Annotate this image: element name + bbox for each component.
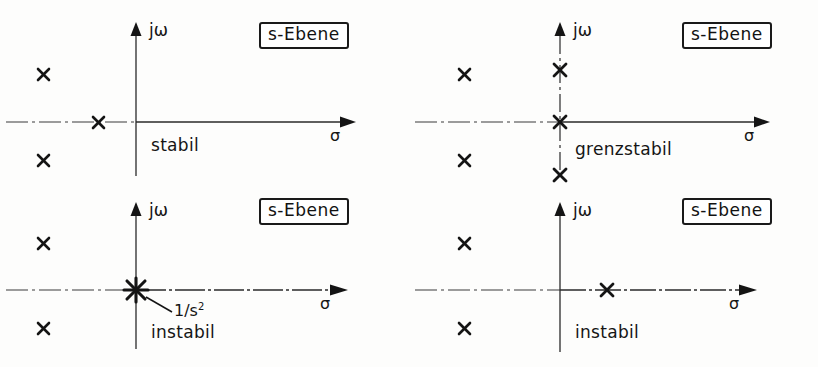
pole-lower-left: [38, 155, 49, 166]
double-pole-origin: [124, 278, 148, 302]
imaginary-axis-label: jω: [573, 202, 592, 219]
real-axis-arrowhead: [754, 117, 770, 128]
imaginary-axis-arrowhead: [555, 22, 566, 36]
real-axis-label: σ: [330, 128, 340, 144]
stability-state-label: stabil: [151, 137, 199, 154]
s-plane-label-box: s-Ebene: [259, 198, 349, 225]
pole-lower-left: [38, 323, 49, 334]
panel-stabil: jω σ stabil s-Ebene: [0, 0, 409, 184]
panel-grenzstabil: jω σ grenzstabil s-Ebene: [409, 0, 818, 184]
imaginary-axis-arrowhead: [131, 202, 142, 216]
pole-real-left: [93, 117, 104, 128]
pole-upper-left: [459, 238, 470, 249]
s-plane-label-box: s-Ebene: [682, 198, 772, 225]
real-axis-label: σ: [729, 296, 739, 312]
stability-state-label: grenzstabil: [575, 141, 672, 158]
pole-upper-left: [38, 69, 49, 80]
imaginary-axis-label: jω: [149, 202, 168, 219]
pole-upper-left: [38, 238, 49, 249]
real-axis-arrowhead: [340, 117, 356, 128]
pole-lower-left: [459, 155, 470, 166]
imaginary-axis-arrowhead: [131, 22, 142, 36]
s-plane-label-box: s-Ebene: [259, 22, 349, 49]
real-axis-arrowhead: [739, 285, 757, 296]
real-axis-arrowhead: [330, 285, 348, 296]
imaginary-axis-label: jω: [149, 22, 168, 39]
transfer-function-annotation: 1/s2: [174, 302, 204, 319]
panel-instabil-double-pole: jω σ 1/s2 instabil s-Ebene: [0, 184, 409, 367]
stability-state-label: instabil: [151, 324, 215, 341]
s-plane-figure: jω σ stabil s-Ebene: [0, 0, 818, 367]
imaginary-axis-arrowhead: [555, 202, 566, 216]
real-axis-label: σ: [320, 296, 330, 312]
real-axis-label: σ: [744, 128, 754, 144]
pole-imag-lower: [554, 169, 566, 181]
annotation-leader-line: [146, 297, 172, 312]
annotation-base: 1/s: [174, 301, 198, 320]
pole-upper-left: [459, 69, 470, 80]
panel-instabil: jω σ instabil s-Ebene: [409, 184, 818, 367]
stability-state-label: instabil: [575, 324, 639, 341]
s-plane-label-box: s-Ebene: [682, 22, 772, 49]
annotation-exponent: 2: [198, 301, 204, 312]
imaginary-axis-label: jω: [573, 22, 592, 39]
pole-lower-left: [459, 323, 470, 334]
